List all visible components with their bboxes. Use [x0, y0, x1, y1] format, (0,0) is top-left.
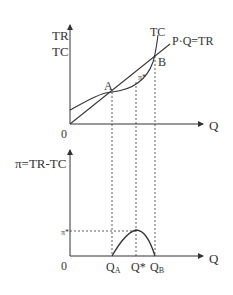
- top-y-label-tc: TC: [52, 44, 69, 59]
- tick-qa: QA: [106, 260, 121, 275]
- tick-qstar: Q*: [131, 260, 146, 274]
- profit-gap-label: π*: [138, 73, 146, 82]
- point-b-label: B: [158, 55, 166, 69]
- bottom-chart: π=TR-TC π* 0 Q QA Q* QB: [15, 150, 219, 275]
- bottom-x-label: Q: [209, 251, 219, 266]
- top-chart: TR TC 0 Q TC P·Q=TR A B π*: [52, 25, 219, 256]
- tc-label: TC: [150, 25, 165, 39]
- point-a-label: A: [104, 79, 113, 93]
- tr-label: P·Q=TR: [172, 34, 213, 48]
- tick-qb: QB: [150, 260, 164, 275]
- top-x-label: Q: [209, 118, 219, 133]
- economics-diagram: TR TC 0 Q TC P·Q=TR A B π* π=TR-TC π* 0 …: [0, 0, 233, 295]
- bottom-y-label: π=TR-TC: [15, 156, 66, 171]
- top-origin-label: 0: [61, 127, 67, 141]
- profit-curve: [112, 230, 155, 256]
- pi-star-tick: π*: [61, 228, 69, 237]
- top-y-label-tr: TR: [52, 28, 69, 43]
- bottom-origin-label: 0: [61, 259, 67, 273]
